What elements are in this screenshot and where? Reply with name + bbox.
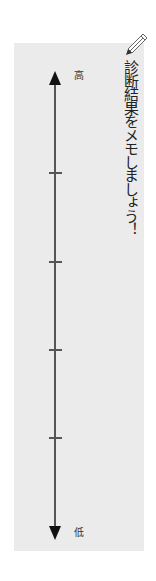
scale-tick <box>49 172 62 174</box>
scale-tick <box>49 437 62 439</box>
scale-tick <box>49 261 62 263</box>
memo-title: 診断結果をメモしましょう！ <box>121 60 139 236</box>
scale-axis-line <box>54 80 56 532</box>
arrow-up-icon <box>49 71 61 85</box>
scale-low-label: 低 <box>74 528 84 538</box>
arrow-down-icon <box>49 526 61 540</box>
pencil-icon <box>123 32 149 58</box>
scale-high-label: 高 <box>74 71 84 81</box>
scale-tick <box>49 349 62 351</box>
